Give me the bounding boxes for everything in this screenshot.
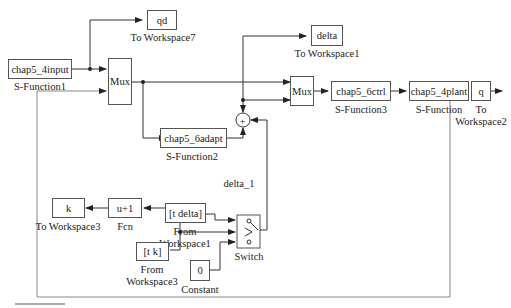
- svg-text:+: +: [240, 116, 245, 126]
- k-label: To Workspace3: [25, 221, 111, 233]
- mux1-block[interactable]: Mux: [108, 58, 132, 105]
- q-label-2: Workspace2: [450, 116, 511, 128]
- plant-block[interactable]: chap5_4plant: [409, 81, 469, 101]
- adapt-label: S-Function2: [152, 151, 232, 163]
- from-k-label-1: From: [122, 264, 182, 276]
- adapt-block[interactable]: chap5_6adapt: [160, 128, 227, 148]
- delta-block[interactable]: delta: [311, 25, 343, 46]
- k-block[interactable]: k: [52, 198, 85, 218]
- from-delta-block[interactable]: [t delta]: [165, 203, 206, 223]
- constant-block[interactable]: 0: [190, 260, 210, 281]
- input-label: S-Function1: [4, 81, 76, 93]
- ctrl-label: S-Function3: [321, 104, 401, 116]
- delta1-signal-label: delta_1: [215, 178, 263, 190]
- q-block[interactable]: q: [471, 81, 491, 101]
- qd-block[interactable]: qd: [147, 10, 177, 30]
- switch-label: Switch: [228, 251, 270, 263]
- from-k-block[interactable]: [t k]: [136, 242, 169, 261]
- input-block[interactable]: chap5_4input: [8, 59, 72, 79]
- fcn-block[interactable]: u+1: [108, 198, 142, 218]
- q-label-1: To: [460, 104, 502, 116]
- constant-label: Constant: [170, 284, 230, 296]
- delta-label: To Workspace1: [288, 48, 366, 60]
- qd-label: To Workspace7: [124, 32, 202, 44]
- from-delta-label-1: From: [155, 226, 215, 238]
- ctrl-block[interactable]: chap5_6ctrl: [331, 81, 391, 101]
- fcn-label: Fcn: [108, 221, 142, 233]
- mux2-block[interactable]: Mux: [290, 76, 314, 106]
